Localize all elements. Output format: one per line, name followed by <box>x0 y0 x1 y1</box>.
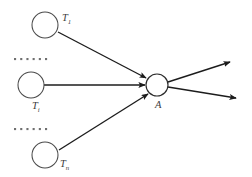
node-label-t1: T1 <box>62 12 71 25</box>
node-label-subscript-tn: n <box>66 164 70 171</box>
edge-incoming-2 <box>59 94 148 150</box>
node-label-subscript-ti: i <box>38 106 40 113</box>
node-label-ti: Ti <box>32 100 40 113</box>
ellipsis-dot <box>45 128 47 130</box>
outgoing-edges-group <box>168 62 236 98</box>
edge-outgoing-0 <box>168 62 230 82</box>
edge-outgoing-1 <box>168 87 236 98</box>
node-circle-a[interactable] <box>146 74 168 96</box>
node-label-tn: Tn <box>60 158 70 171</box>
ellipsis-dot <box>14 128 16 130</box>
incoming-edges-group <box>44 32 148 150</box>
node-link-diagram: T1TiTn A <box>0 0 252 177</box>
ellipsis-dot <box>26 128 28 130</box>
ellipsis-icon <box>14 128 47 130</box>
ellipsis-dot <box>39 128 41 130</box>
diagram-canvas: T1TiTn A <box>0 0 252 177</box>
ellipsis-dot <box>33 58 35 60</box>
graph-node-a[interactable]: A <box>146 74 168 110</box>
ellipsis-dot <box>26 58 28 60</box>
node-label-a: A <box>154 99 162 110</box>
ellipsis-dot <box>14 58 16 60</box>
node-circle-t1[interactable] <box>32 12 58 38</box>
node-circle-tn[interactable] <box>32 142 58 168</box>
graph-node-t1[interactable]: T1 <box>32 12 71 38</box>
edge-incoming-0 <box>58 32 146 78</box>
ellipsis-dot <box>20 128 22 130</box>
ellipsis-dot <box>33 128 35 130</box>
ellipsis-icon <box>14 58 47 60</box>
node-label-subscript-t1: 1 <box>68 18 71 25</box>
hub-node-group: A <box>146 74 168 110</box>
node-circle-ti[interactable] <box>18 72 44 98</box>
ellipsis-dot <box>20 58 22 60</box>
ellipsis-dot <box>39 58 41 60</box>
ellipsis-dot <box>45 58 47 60</box>
graph-node-ti[interactable]: Ti <box>18 72 44 113</box>
